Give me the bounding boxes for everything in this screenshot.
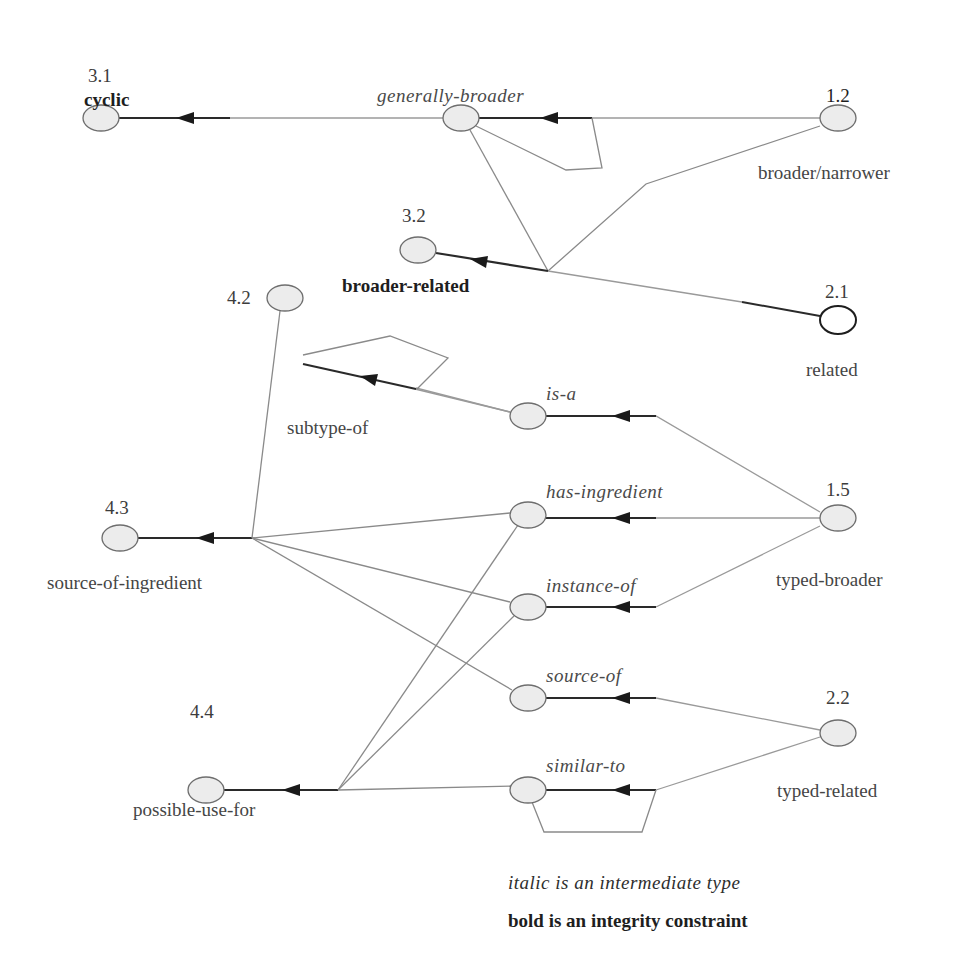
edge-gb-to-cyclic [119,112,443,124]
edge-hi-to-junction44 [338,525,518,790]
arrowhead-icon [612,692,630,704]
node-4-2-number: 4.2 [227,288,251,307]
node-2-2-label: typed-related [777,781,877,800]
self-loop-gb [476,118,602,170]
node-3-2-number: 3.2 [402,206,426,225]
node-instance-of[interactable] [510,594,546,620]
node-4-2-subtype-of[interactable] [267,285,303,311]
edge-junction-to-43 [138,532,252,544]
node-2-2-typed-related[interactable] [820,720,856,746]
arrowhead-icon [540,112,558,124]
arrowhead-icon [612,784,630,796]
arrowhead-icon [196,532,214,544]
node-4-4-number: 4.4 [190,702,214,721]
node-has-ingredient-label: has-ingredient [546,482,663,501]
node-4-3-label: source-of-ingredient [47,573,202,592]
edge-st-junction [338,786,512,790]
edge-21-to-junction [548,271,820,316]
node-3-1-label: cyclic [84,90,129,109]
node-generally-broader-label: generally-broader [377,86,524,105]
node-instance-of-label: instance-of [546,576,636,595]
self-loop-st [532,790,656,832]
edge-hi-to-junction43 [252,513,510,538]
edge-22-to-so [546,692,820,730]
node-2-1-number: 2.1 [825,282,849,301]
node-similar-to[interactable] [510,777,546,803]
node-4-2-label: subtype-of [287,418,368,437]
edge-io-to-junction44 [338,616,514,790]
node-generally-broader[interactable] [443,105,479,131]
node-source-of[interactable] [510,685,546,711]
legend-italic: italic is an intermediate type [508,872,740,894]
node-4-4-label: possible-use-for [133,800,255,819]
node-1-5-number: 1.5 [826,480,850,499]
node-1-2-broader-narrower[interactable] [820,105,856,131]
edge-42-to-junction43 [252,311,280,538]
edge-gb-to-junction [470,130,548,271]
arrowhead-icon [612,512,630,524]
edge-isa-dark-segment [303,364,416,389]
node-3-2-broader-related[interactable] [400,237,436,263]
node-source-of-label: source-of [546,666,622,685]
node-has-ingredient[interactable] [510,502,546,528]
edge-io-to-junction43 [252,538,510,602]
node-2-2-number: 2.2 [826,688,850,707]
arrowhead-icon [612,601,630,613]
edge-junction-to-44 [224,784,338,796]
node-3-1-number: 3.1 [88,66,112,85]
node-is-a[interactable] [510,403,546,429]
arrowhead-icon [360,374,378,386]
edge-15-to-hi [546,512,820,524]
node-similar-to-label: similar-to [546,756,626,775]
arrowhead-icon [612,410,630,422]
node-2-1-label: related [806,360,858,379]
edge-12-to-junction [548,126,820,271]
node-1-5-label: typed-broader [776,570,883,589]
node-4-3-number: 4.3 [105,498,129,517]
edge-so-to-junction43 [252,538,512,690]
arrowhead-icon [282,784,300,796]
edge-isa-to-42 [303,302,510,412]
node-1-2-number: 1.2 [826,86,850,105]
node-4-3-source-of-ingredient[interactable] [102,525,138,551]
edge-junction-to-32 [436,253,548,271]
node-1-5-typed-broader[interactable] [820,505,856,531]
node-3-2-label: broader-related [342,276,469,295]
edge-12-to-gb [479,112,820,124]
legend-bold: bold is an integrity constraint [508,910,748,932]
node-2-1-related[interactable] [820,306,856,334]
arrowhead-icon [176,112,194,124]
node-is-a-label: is-a [546,384,577,403]
node-1-2-label: broader/narrower [758,163,890,182]
